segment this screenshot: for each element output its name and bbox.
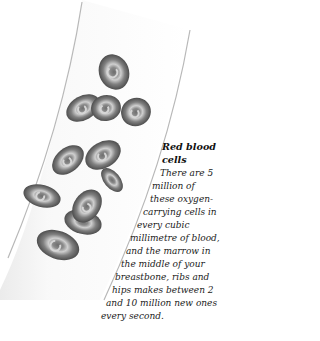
caption-line: every second.	[101, 311, 164, 321]
caption-title-line2: cells	[162, 154, 187, 165]
caption-line: millimetre of blood,	[130, 233, 220, 243]
caption-line: There are 5	[160, 168, 213, 178]
caption-line: these oxygen-	[150, 194, 213, 204]
caption-line: every cubic	[137, 220, 190, 230]
caption-line: hips makes between 2	[112, 285, 214, 295]
caption-line: the middle of your	[121, 259, 205, 269]
caption-line: and 10 million new ones	[106, 298, 217, 308]
caption-line: breastbone, ribs and	[115, 272, 209, 282]
caption-line: million of	[152, 181, 195, 191]
caption-line: and the marrow in	[126, 246, 211, 256]
caption-line: carrying cells in	[143, 207, 217, 217]
caption-title-line1: Red blood	[162, 141, 216, 152]
